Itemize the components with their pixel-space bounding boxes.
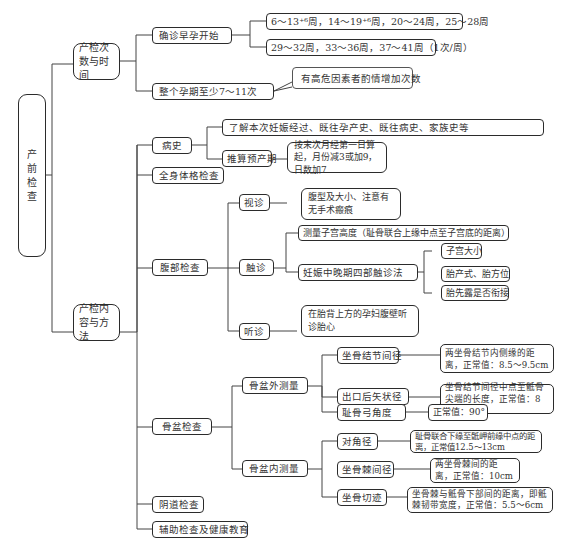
node-label: 触诊 bbox=[246, 261, 266, 274]
root-char: 查 bbox=[27, 190, 37, 204]
node-label: 坐骨结节间径 bbox=[342, 349, 402, 362]
node-vaginal-exam[interactable]: 阴道检查 bbox=[152, 496, 204, 513]
node-label: 耻骨弓角度 bbox=[342, 406, 392, 419]
node-external-item-detail[interactable]: 正常值：90° bbox=[428, 404, 488, 421]
node-total-visits[interactable]: 整个孕期至少7～11次 bbox=[152, 83, 274, 100]
node-label: 出口后矢状径 bbox=[342, 390, 402, 403]
node-label: 产检次数与时间 bbox=[79, 41, 114, 83]
node-external-item-detail[interactable]: 两坐骨结节内侧缘的距离，正常值：8.5～9.5cm bbox=[440, 344, 554, 373]
node-label: 正常值：90° bbox=[433, 406, 485, 419]
node-pelvic-exam[interactable]: 骨盆检查 bbox=[152, 418, 212, 435]
node-label: 对角径 bbox=[342, 435, 372, 448]
node-due-date-detail[interactable]: 按末次月经第一日算起，月份减3或加9，日数加7 bbox=[287, 142, 387, 173]
node-leopold[interactable]: 妊娠中晚期四部触诊法 bbox=[298, 264, 418, 281]
node-label: 骨盆内测量 bbox=[249, 462, 299, 475]
node-external-measure[interactable]: 骨盆外测量 bbox=[242, 377, 308, 394]
node-label: 推算预产期 bbox=[227, 152, 277, 165]
node-label: 坐骨棘与骶骨下部间的距离，即骶棘韧带宽度，正常值：5.5～6cm bbox=[412, 489, 548, 512]
node-label: 两坐骨棘间的距离，正常值：10cm bbox=[435, 459, 515, 482]
node-physical-exam[interactable]: 全身体格检查 bbox=[152, 167, 224, 184]
node-internal-item[interactable]: 坐骨棘间径 bbox=[337, 461, 394, 478]
root-char: 产 bbox=[27, 148, 37, 162]
node-label: 腹型及大小、注意有无手术瘢痕 bbox=[308, 191, 394, 217]
node-palpation[interactable]: 触诊 bbox=[239, 259, 274, 276]
node-label: 骨盆外测量 bbox=[249, 379, 299, 392]
node-label: 子宫大小 bbox=[446, 245, 482, 258]
root-node-prenatal-exam[interactable]: 产 前 检 查 bbox=[18, 94, 46, 257]
node-label: 妊娠中晚期四部触诊法 bbox=[303, 266, 403, 279]
node-external-item[interactable]: 耻骨弓角度 bbox=[337, 404, 406, 421]
node-inspection-detail[interactable]: 腹型及大小、注意有无手术瘢痕 bbox=[301, 188, 401, 220]
node-schedule-2[interactable]: 29～32周，33～36周，37～41周（1次/周） bbox=[266, 39, 436, 56]
node-label: 确诊早孕开始 bbox=[159, 29, 219, 42]
node-internal-item-detail[interactable]: 两坐骨棘间的距离，正常值：10cm bbox=[430, 458, 520, 483]
node-history-detail[interactable]: 了解本次妊娠经过、既往孕产史、既往病史、家族史等 bbox=[222, 119, 544, 136]
node-auscultation[interactable]: 听诊 bbox=[239, 323, 270, 340]
node-label: 胎先露是否衔接 bbox=[446, 287, 509, 300]
node-label: 腹部检查 bbox=[160, 261, 200, 274]
node-inspection[interactable]: 视诊 bbox=[239, 194, 270, 211]
node-internal-item-detail[interactable]: 耻骨联合下缘至骶岬前缘中点的距离，正常值12.5～13cm bbox=[410, 430, 542, 453]
node-label: 6～13⁺⁶周，14～19⁺⁶周，20～24周，25～28周 bbox=[271, 15, 489, 28]
node-label: 两坐骨结节内侧缘的距离，正常值：8.5～9.5cm bbox=[445, 347, 549, 371]
node-label: 按末次月经第一日算起，月份减3或加9，日数加7 bbox=[294, 139, 380, 177]
node-exam-times[interactable]: 产检次数与时间 bbox=[73, 43, 120, 80]
root-char: 前 bbox=[27, 162, 37, 176]
node-auscultation-detail[interactable]: 在胎背上方的孕妇腹壁听诊胎心 bbox=[301, 305, 419, 337]
node-internal-item-detail[interactable]: 坐骨棘与骶骨下部间的距离，即骶棘韧带宽度，正常值：5.5～6cm bbox=[407, 487, 553, 513]
node-internal-item[interactable]: 对角径 bbox=[337, 433, 378, 450]
node-label: 全身体格检查 bbox=[159, 169, 219, 182]
node-confirm-early-pregnancy[interactable]: 确诊早孕开始 bbox=[152, 27, 232, 44]
node-external-item[interactable]: 出口后矢状径 bbox=[337, 388, 409, 405]
node-due-date[interactable]: 推算预产期 bbox=[222, 150, 272, 167]
node-label: 产检内容与方法 bbox=[79, 302, 114, 344]
node-history[interactable]: 病史 bbox=[152, 137, 192, 154]
node-schedule-1[interactable]: 6～13⁺⁶周，14～19⁺⁶周，20～24周，25～28周 bbox=[266, 13, 463, 30]
node-label: 了解本次妊娠经过、既往孕产史、既往病史、家族史等 bbox=[229, 121, 469, 134]
node-label: 测量子宫高度（耻骨联合上缘中点至子宫底的距离） bbox=[303, 227, 510, 240]
node-label: 整个孕期至少7～11次 bbox=[159, 85, 257, 98]
node-label: 辅助检查及健康教育 bbox=[159, 523, 249, 536]
node-label: 病史 bbox=[162, 139, 182, 152]
node-label: 耻骨联合下缘至骶岬前缘中点的距离，正常值12.5～13cm bbox=[415, 431, 537, 453]
node-label: 胎产式、胎方位 bbox=[446, 268, 509, 281]
root-char: 检 bbox=[27, 176, 37, 190]
node-label: 阴道检查 bbox=[159, 498, 199, 511]
node-external-item[interactable]: 坐骨结节间径 bbox=[337, 347, 399, 364]
node-abdominal-exam[interactable]: 腹部检查 bbox=[152, 259, 208, 276]
node-label: 坐骨切迹 bbox=[342, 491, 382, 504]
node-leopold-item[interactable]: 子宫大小 bbox=[441, 243, 482, 259]
callout-text: 有高危因素者酌情增加次数 bbox=[301, 73, 421, 84]
node-label: 29～32周，33～36周，37～41周（1次/周） bbox=[271, 41, 473, 54]
node-exam-content[interactable]: 产检内容与方法 bbox=[73, 304, 120, 341]
node-auxiliary-exam[interactable]: 辅助检查及健康教育 bbox=[152, 521, 248, 538]
node-label: 听诊 bbox=[244, 325, 264, 338]
node-label: 视诊 bbox=[244, 196, 264, 209]
node-leopold-item[interactable]: 胎产式、胎方位 bbox=[441, 266, 510, 282]
node-label: 在胎背上方的孕妇腹壁听诊胎心 bbox=[308, 308, 412, 334]
node-label: 骨盆检查 bbox=[162, 420, 202, 433]
node-label: 坐骨棘间径 bbox=[342, 463, 392, 476]
node-internal-item[interactable]: 坐骨切迹 bbox=[337, 489, 387, 506]
node-leopold-item[interactable]: 胎先露是否衔接 bbox=[441, 285, 509, 301]
node-internal-measure[interactable]: 骨盆内测量 bbox=[242, 460, 308, 477]
node-fundal-height[interactable]: 测量子宫高度（耻骨联合上缘中点至子宫底的距离） bbox=[298, 225, 509, 241]
callout-high-risk-note: 有高危因素者酌情增加次数 bbox=[292, 67, 413, 89]
